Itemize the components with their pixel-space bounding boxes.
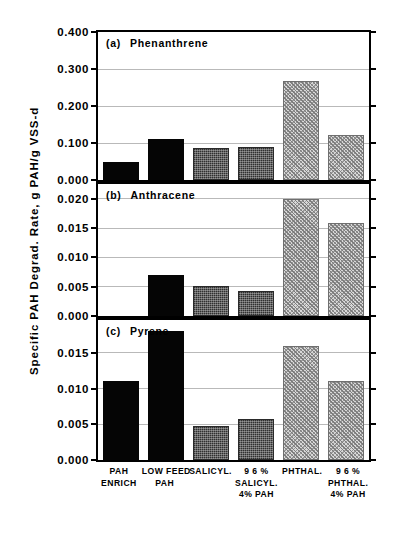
panel-id-a: (a) [106,37,121,49]
y-tick-left [91,68,98,70]
x-axis-label-line: 9 6 % [234,466,280,478]
y-tick-right [369,459,376,461]
bar [148,275,184,316]
plot-area-b [98,184,369,316]
y-tick-label: 0.400 [57,26,89,38]
x-axis-label-line: PAH [142,478,188,490]
bar [283,199,319,316]
y-tick-left [91,142,98,144]
y-tick-label: 0.100 [57,137,89,149]
x-axis-label-line: 4% PAH [234,489,280,501]
y-tick-right [369,142,376,144]
bar [193,148,229,180]
plot-area-a [98,32,369,180]
x-axis-label: PHTHAL. [279,466,325,478]
plot-area-c [98,320,369,460]
panel-name-c: Pyrene [130,325,169,337]
y-tick-right [369,256,376,258]
y-tick-left [91,256,98,258]
bar [193,286,229,317]
gridline [98,352,369,353]
bar [283,346,319,460]
y-tick-left [91,423,98,425]
panel-pyrene: (c)Pyrene 0.0000.0050.0100.015 [96,318,371,462]
panel-caption-c: (c)Pyrene [106,325,169,337]
bar [148,331,184,460]
y-tick-left [91,352,98,354]
bar [103,381,139,460]
y-tick-right [369,31,376,33]
y-tick-label: 0.005 [57,281,89,293]
x-axis-label-line: ENRICH [96,478,142,490]
x-axis-label: PAHENRICH [96,466,142,489]
x-axis-label: 9 6 %PHTHAL.4% PAH [325,466,371,501]
y-tick-label: 0.000 [57,454,89,466]
figure: Specific PAH Degrad. Rate, g PAH/g VSS-d… [0,0,415,536]
gridline [98,69,369,70]
panel-name-b: Anthracene [131,189,196,201]
bar [148,139,184,180]
y-tick-right [369,286,376,288]
y-tick-left [91,198,98,200]
y-tick-right [369,198,376,200]
y-tick-right [369,315,376,317]
bar [328,381,364,460]
y-tick-left [91,315,98,317]
bar [328,135,364,181]
bar [193,426,229,460]
y-tick-right [369,105,376,107]
y-tick-left [91,227,98,229]
y-tick-left [91,179,98,181]
panel-caption-a: (a)Phenanthrene [106,37,208,49]
bar [328,223,364,316]
y-tick-label: 0.010 [57,383,89,395]
y-tick-label: 0.015 [57,222,89,234]
y-tick-label: 0.015 [57,347,89,359]
y-axis-title: Specific PAH Degrad. Rate, g PAH/g VSS-d [25,11,43,471]
y-tick-left [91,105,98,107]
x-axis-label-line: PAH [96,466,142,478]
y-tick-right [369,352,376,354]
y-tick-label: 0.300 [57,63,89,75]
y-tick-label: 0.020 [57,193,89,205]
y-tick-label: 0.000 [57,310,89,322]
x-axis-label-line: SALICYL. [234,478,280,490]
y-tick-left [91,31,98,33]
y-tick-right [369,179,376,181]
x-axis-label-line: PHTHAL. [279,466,325,478]
y-tick-label: 0.010 [57,251,89,263]
x-axis-label: SALICYL. [188,466,234,478]
bar [238,147,274,180]
bar [103,162,139,180]
x-axis-label-line: PHTHAL. [325,478,371,490]
x-axis-label: LOW FEEDPAH [142,466,188,489]
bar [283,81,319,180]
x-axis-category-labels: PAHENRICHLOW FEEDPAHSALICYL.9 6 %SALICYL… [96,466,371,530]
y-tick-left [91,459,98,461]
panel-anthracene: (b)Anthracene 0.0000.0050.0100.0150.020 [96,182,371,318]
y-tick-label: 0.005 [57,418,89,430]
y-tick-label: 0.000 [57,174,89,186]
panel-caption-b: (b)Anthracene [106,189,195,201]
x-axis-label-line: SALICYL. [188,466,234,478]
x-axis-label-line: LOW FEED [142,466,188,478]
x-axis-label-line: 4% PAH [325,489,371,501]
y-tick-right [369,423,376,425]
y-tick-left [91,286,98,288]
bar [238,291,274,316]
gridline [98,106,369,107]
x-axis-label-line: 9 6 % [325,466,371,478]
y-tick-right [369,227,376,229]
y-tick-right [369,68,376,70]
panel-phenanthrene: (a)Phenanthrene 0.0000.1000.2000.3000.40… [96,30,371,182]
bar [238,419,274,460]
y-tick-label: 0.200 [57,100,89,112]
y-tick-right [369,388,376,390]
panel-id-c: (c) [106,325,121,337]
panel-id-b: (b) [106,189,122,201]
y-tick-left [91,388,98,390]
panel-name-a: Phenanthrene [130,37,208,49]
x-axis-label: 9 6 %SALICYL.4% PAH [234,466,280,501]
